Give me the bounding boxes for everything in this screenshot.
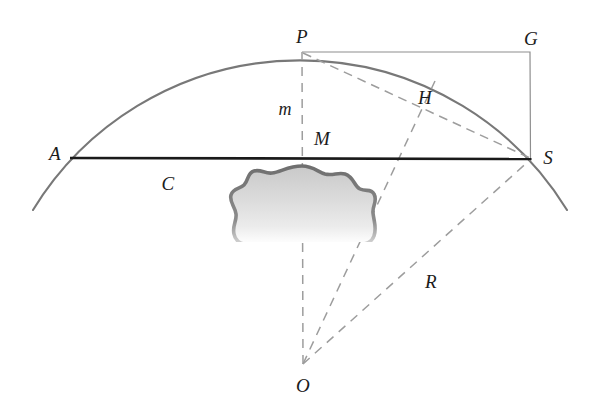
label-point-a: A	[49, 144, 61, 163]
label-height-m: m	[278, 100, 291, 118]
terrain-blob-body	[231, 166, 376, 244]
label-radius-r: R	[425, 272, 437, 291]
label-point-o: O	[296, 376, 310, 395]
label-point-h: H	[418, 88, 432, 107]
dashed-chord-ps	[303, 53, 530, 158]
geometry-diagram: A C P G m M H S R O	[0, 0, 590, 414]
terrain-blob	[231, 166, 376, 244]
label-point-s: S	[543, 148, 553, 167]
label-point-m: M	[314, 129, 330, 148]
label-point-p: P	[296, 27, 308, 46]
diagram-canvas	[0, 0, 590, 414]
label-point-g: G	[524, 29, 538, 48]
label-chord-c: C	[162, 174, 175, 193]
chord-as	[70, 158, 532, 159]
